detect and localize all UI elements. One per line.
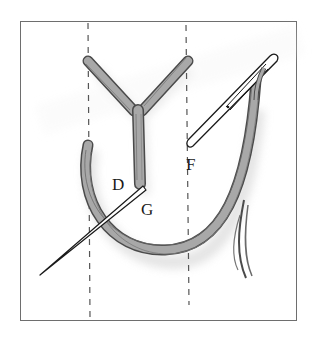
- label-g: G: [141, 201, 153, 218]
- label-f: F: [186, 156, 195, 173]
- label-d: D: [112, 176, 124, 193]
- stitch-diagram: D G F: [0, 0, 312, 340]
- diagram-canvas: [0, 0, 312, 340]
